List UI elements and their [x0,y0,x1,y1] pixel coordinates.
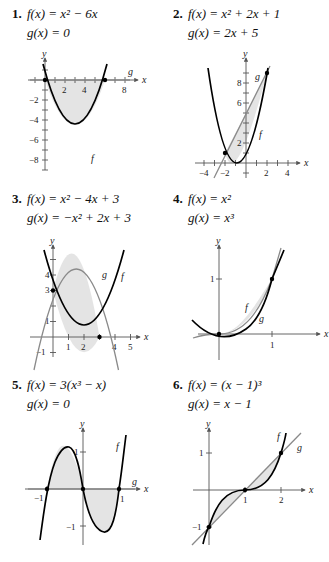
x-axis-label: x [143,483,149,494]
graph-4: 11 y x f g [192,235,329,360]
x-axis-label: x [143,331,149,342]
intersection-point [270,277,274,281]
y-axis-label: y [49,235,55,246]
svg-text:2: 2 [237,138,242,148]
svg-text:2: 2 [264,168,269,178]
x-axis-label: x [141,74,147,85]
g-label: g [102,269,107,280]
svg-text:3: 3 [45,285,50,295]
svg-text:1: 1 [120,494,125,504]
svg-text:1: 1 [270,340,275,350]
graphs-canvas: 248 −2−4 −6−8 y x g f −4−2 24 268 y x [0,0,329,562]
g-label: g [297,442,302,453]
svg-text:1: 1 [210,274,215,284]
y-axis-label: y [242,48,248,59]
svg-text:1: 1 [243,495,248,505]
shaded-region [45,80,105,125]
svg-text:−1: −1 [34,493,44,503]
svg-text:−4: −4 [199,168,209,178]
intersection-point [45,487,49,491]
f-curve [192,250,284,337]
intersection-point [103,78,107,82]
svg-text:1: 1 [199,448,204,458]
x-axis-label: x [303,157,309,168]
intersection-point [43,78,47,82]
svg-text:−8: −8 [29,155,39,165]
graph-2: −4−2 24 268 y x g f [195,48,309,178]
g-label: g [128,66,133,77]
intersection-point [279,451,283,455]
f-label: f [277,431,281,442]
f-label: f [259,129,263,140]
svg-text:4: 4 [285,168,290,178]
intersection-point [81,487,85,491]
svg-text:2: 2 [62,85,67,95]
svg-text:8: 8 [237,78,242,88]
svg-text:5: 5 [128,342,133,352]
svg-text:1: 1 [66,342,71,352]
graph-1: 248 −2−4 −6−8 y x g f [28,48,147,170]
intersection-point [207,525,211,529]
svg-text:−2: −2 [220,168,230,178]
f-label: f [116,441,120,452]
svg-text:−1: −1 [192,522,202,532]
intersection-point [217,332,221,336]
svg-text:6: 6 [237,98,242,108]
intersection-point [243,488,247,492]
intersection-point [223,151,227,155]
svg-text:4: 4 [82,85,87,95]
g-label: g [132,476,137,487]
svg-text:4: 4 [45,270,50,280]
y-axis-label: y [79,418,85,429]
graph-5: −11 1−1 y x f g [25,418,149,545]
g-label: g [259,313,264,324]
x-axis-label: x [308,484,314,495]
f-label: f [121,271,125,282]
svg-text:8: 8 [122,85,127,95]
f-label: f [91,153,95,164]
graph-3: 12 45 −11 34 y x g f [30,235,149,370]
intersection-point [97,335,101,339]
x-axis-label: x [323,328,329,339]
g-label: g [255,71,260,82]
svg-text:−6: −6 [29,135,39,145]
svg-text:−2: −2 [29,95,39,105]
f-label: f [245,302,249,313]
y-axis-label: y [205,418,211,429]
svg-text:−1: −1 [66,522,76,532]
y-axis-label: y [215,235,221,246]
y-axis-label: y [41,48,47,59]
intersection-point [265,71,269,75]
intersection-point [51,288,55,292]
graph-6: 12 1−1 y x f g [192,418,314,545]
g-curve [214,66,270,178]
svg-text:2: 2 [81,342,86,352]
svg-text:2: 2 [279,495,284,505]
svg-text:−4: −4 [29,115,39,125]
intersection-point [117,487,121,491]
